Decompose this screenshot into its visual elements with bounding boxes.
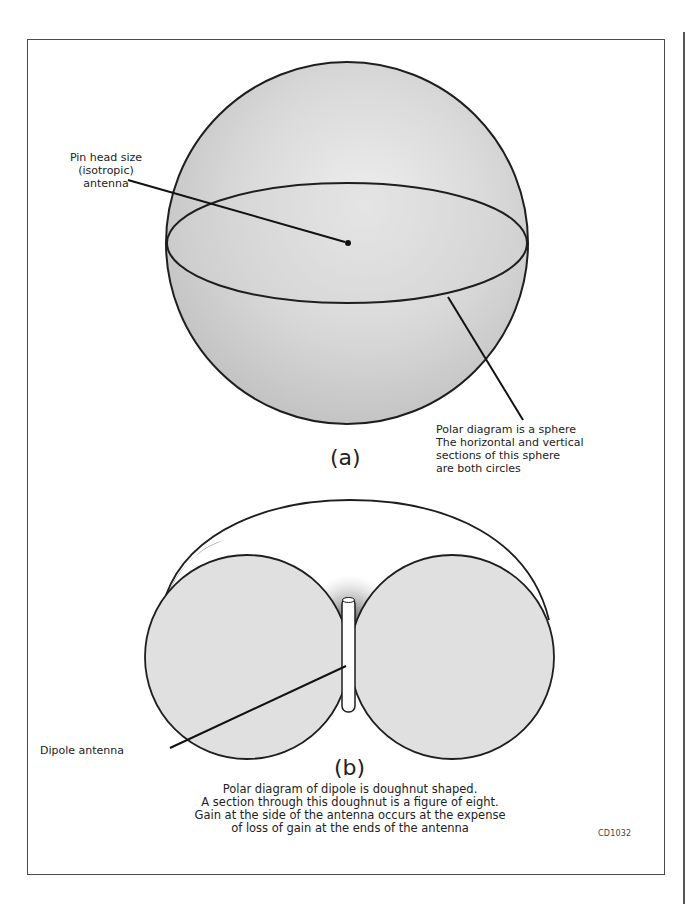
dipole-rod-icon <box>342 598 355 712</box>
description-line: of loss of gain at the ends of the anten… <box>140 822 560 835</box>
caption-b: (b) <box>334 756 365 780</box>
dipole-doughnut <box>145 500 554 759</box>
isotropic-sphere <box>128 62 528 424</box>
doughnut-description: Polar diagram of dipole is doughnut shap… <box>140 783 560 835</box>
description-line: The horizontal and vertical <box>436 436 636 449</box>
description-line: are both circles <box>436 462 636 475</box>
figure-code: CD1032 <box>598 829 631 838</box>
sphere-description: Polar diagram is a sphere The horizontal… <box>436 423 636 475</box>
isotropic-antenna-label: Pin head size (isotropic) antenna <box>56 151 156 190</box>
caption-a: (a) <box>330 446 361 470</box>
label-line: Pin head size <box>56 151 156 164</box>
description-line: Polar diagram is a sphere <box>436 423 636 436</box>
label-line: antenna <box>56 177 156 190</box>
dipole-antenna-label: Dipole antenna <box>40 744 124 757</box>
label-line: (isotropic) <box>56 164 156 177</box>
isotropic-point-icon <box>345 240 351 246</box>
description-line: sections of this sphere <box>436 449 636 462</box>
